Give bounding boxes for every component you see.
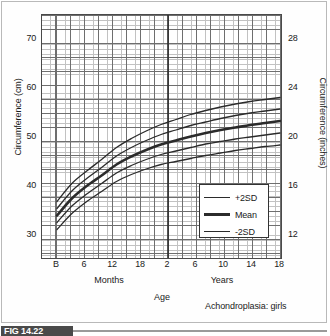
y-axis-right-tick-24: 24 [288, 82, 310, 92]
y-axis-right-title: Circumference (inches) [318, 53, 328, 193]
legend-row-minus2sd: -2SD [204, 225, 266, 238]
legend-row-plus2sd: +2SD [204, 191, 266, 204]
x-axis-tick-12-months: 12 [100, 259, 124, 269]
x-axis-tick-birth: B [44, 259, 68, 269]
x-axis-tick-6-years: 6 [183, 259, 207, 269]
figure-number-text: FIG 14.22 [4, 326, 43, 336]
x-axis-tick-10-years: 10 [211, 259, 235, 269]
legend-label-minus2sd: -2SD [235, 227, 255, 237]
figure-number-tag: FIG 14.22 [1, 326, 73, 336]
legend-swatch-minus2sd [204, 231, 230, 232]
y-axis-right-tick-20: 20 [288, 131, 310, 141]
x-axis-tick-18-months: 18 [128, 259, 152, 269]
y-axis-left-tick-30: 30 [14, 229, 36, 239]
chart-legend: +2SD Mean -2SD [199, 184, 269, 238]
y-axis-right-tick-12: 12 [288, 229, 310, 239]
y-axis-left-title: Circumference (cm) [13, 52, 23, 182]
legend-label-plus2sd: +2SD [235, 193, 257, 203]
x-axis-tick-18-years: 18 [267, 259, 291, 269]
y-axis-left-tick-70: 70 [14, 33, 36, 43]
legend-swatch-plus2sd [204, 197, 230, 198]
legend-row-mean: Mean [204, 208, 266, 221]
chart-subtitle-note: Achondroplasia: girls [205, 301, 325, 311]
y-axis-right-tick-28: 28 [288, 33, 310, 43]
x-axis-tick-2-years: 2 [155, 259, 179, 269]
x-axis-tick-14-years: 14 [239, 259, 263, 269]
x-axis-group-months: Months [84, 275, 134, 285]
figure-rule [73, 330, 327, 332]
x-axis-group-years: Years [202, 275, 242, 285]
y-axis-right-tick-16: 16 [288, 180, 310, 190]
legend-swatch-mean [204, 213, 230, 216]
x-axis-tick-6-months: 6 [72, 259, 96, 269]
growth-chart-figure: 70 60 50 40 30 28 24 20 16 12 Circumfere… [0, 0, 330, 336]
legend-label-mean: Mean [235, 210, 257, 220]
x-axis-title: Age [142, 292, 182, 302]
